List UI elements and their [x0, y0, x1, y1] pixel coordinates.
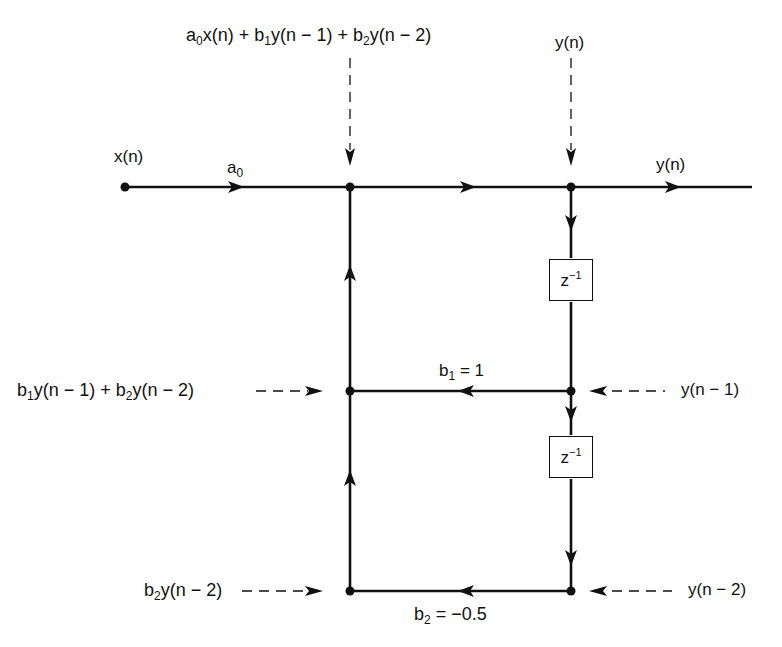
delay-block-label: z−1 [560, 446, 581, 468]
arrow-right-icon [305, 586, 323, 596]
node-y-output [567, 183, 576, 192]
node-sum-top [346, 183, 355, 192]
coefficient-branches [350, 391, 571, 591]
arrow-down-icon [566, 148, 576, 166]
node-sum-mid [346, 387, 355, 396]
y-n-minus-1-label: y(n − 1) [681, 381, 739, 398]
node-y-n1 [567, 387, 576, 396]
input-label: x(n) [114, 148, 143, 165]
signal-flow-graph [0, 0, 782, 647]
output-label: y(n) [656, 156, 685, 173]
node-x-input [121, 183, 130, 192]
gain-a0-label: a0 [227, 159, 243, 179]
delay-block-1: z−1 [549, 259, 593, 301]
coefficient-b2-label: b2 = −0.5 [414, 605, 487, 626]
coefficient-b1-label: b1 = 1 [439, 362, 484, 382]
arrow-left-icon [589, 586, 607, 596]
feedback-b2-expression-label: b2y(n − 2) [144, 581, 222, 602]
node-sum-bottom [346, 587, 355, 596]
top-sum-expression-label: a0x(n) + b1y(n − 1) + b2y(n − 2) [186, 26, 431, 47]
arrow-down-icon [345, 148, 355, 166]
annotation-pointers [242, 58, 672, 591]
y-n-minus-2-label: y(n − 2) [688, 581, 746, 598]
delay-block-2: z−1 [549, 436, 593, 478]
y-n-probe-label: y(n) [555, 34, 584, 51]
feedback-sum-expression-label: b1y(n − 1) + b2y(n − 2) [17, 381, 194, 402]
node-y-n2 [567, 587, 576, 596]
arrow-left-icon [589, 386, 607, 396]
delay-block-label: z−1 [560, 269, 581, 291]
coefficient-arrows [458, 385, 474, 597]
